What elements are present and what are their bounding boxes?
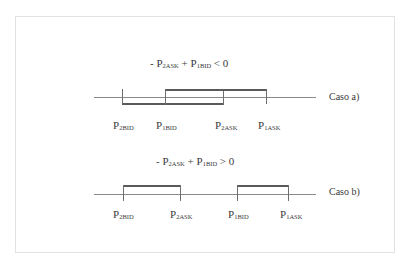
label-p1bid-b: P1BID xyxy=(228,208,249,223)
case-label-a: Caso a) xyxy=(329,91,359,103)
formula-subscript: 1BID xyxy=(203,160,217,167)
interval-2-case-a xyxy=(122,103,224,105)
tick-p1bid-b xyxy=(237,185,238,201)
formula-suffix: < 0 xyxy=(211,57,228,69)
interval-1-case-b xyxy=(237,185,289,187)
formula-mid: + P xyxy=(179,57,197,69)
tick-p1bid-a xyxy=(165,89,166,105)
tick-p2ask-b xyxy=(180,185,181,201)
price-axis-case-a xyxy=(94,97,316,98)
price-axis-case-b xyxy=(94,194,316,195)
label-p1ask-b: P1ASK xyxy=(280,208,302,223)
tick-p1ask-b xyxy=(288,185,289,201)
formula-subscript: 2ASK xyxy=(163,62,179,69)
formula-case-a: - P2ASK + P1BID < 0 xyxy=(150,57,228,72)
formula-case-b: - P2ASK + P1BID > 0 xyxy=(156,155,234,170)
diagram-frame xyxy=(15,16,395,253)
formula-prefix: - P xyxy=(150,57,163,69)
tick-p2ask-a xyxy=(223,90,224,105)
tick-p1ask-a xyxy=(266,89,267,104)
formula-suffix: > 0 xyxy=(217,155,234,167)
label-p2ask-a: P2ASK xyxy=(215,119,237,134)
label-p2ask-b: P2ASK xyxy=(170,208,192,223)
formula-mid: + P xyxy=(185,155,203,167)
case-label-b: Caso b) xyxy=(329,186,360,198)
label-p2bid-a: P2BID xyxy=(113,119,134,134)
label-p1ask-a: P1ASK xyxy=(258,119,280,134)
label-p1bid-a: P1BID xyxy=(156,119,177,134)
formula-subscript: 1BID xyxy=(197,62,211,69)
formula-subscript: 2ASK xyxy=(169,160,185,167)
tick-p2bid-b xyxy=(123,185,124,201)
interval-1-case-a xyxy=(165,89,267,91)
formula-prefix: - P xyxy=(156,155,169,167)
label-p2bid-b: P2BID xyxy=(113,208,134,223)
interval-2-case-b xyxy=(123,185,181,187)
